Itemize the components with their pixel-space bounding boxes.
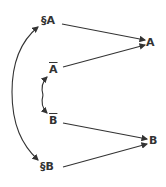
arrow-notb-to-b [63,123,147,139]
arrow-sa-to-a [62,24,145,40]
node-section-b: §B [40,161,54,172]
node-section-a: §A [41,15,55,26]
node-not-b: B [49,115,57,126]
arrow-nota-to-a [63,45,145,67]
node-not-a: A [49,64,58,75]
curve-to-sb [12,92,38,160]
arrow-sb-to-b [63,144,147,167]
curve-to-sa [12,27,38,92]
node-a: A [146,37,155,48]
node-b: B [149,135,157,146]
diagram-canvas [0,0,166,187]
curve-to-nota [42,77,47,95]
curve-to-notb [42,95,47,113]
